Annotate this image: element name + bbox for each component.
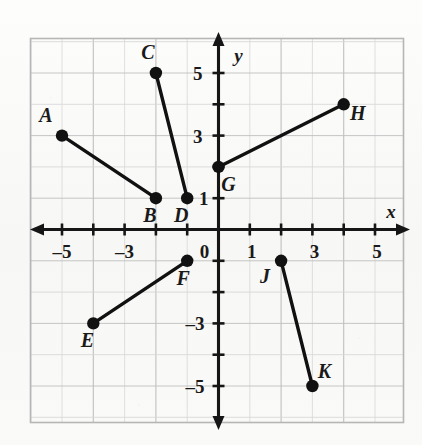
point-J xyxy=(275,255,287,267)
axes-layer xyxy=(30,32,410,430)
point-label-F: F xyxy=(176,267,191,289)
x-tick-label: 0 xyxy=(200,241,210,262)
point-H xyxy=(338,98,350,110)
point-label-K: K xyxy=(317,360,333,382)
point-label-A: A xyxy=(37,104,52,126)
y-tick-label: –5 xyxy=(185,376,205,397)
y-tick-label: 3 xyxy=(193,126,203,147)
point-label-E: E xyxy=(80,329,94,351)
y-tick-label: 5 xyxy=(193,63,203,84)
point-label-J: J xyxy=(259,265,271,287)
coordinate-plane-svg: –5–30135531–3–5 ABCDEFGHJK xy xyxy=(0,0,422,445)
y-axis-label: y xyxy=(232,45,243,66)
point-label-D: D xyxy=(173,204,188,226)
point-D xyxy=(181,192,193,204)
point-C xyxy=(150,67,162,79)
x-tick-label: 3 xyxy=(310,241,320,262)
point-label-G: G xyxy=(221,173,236,195)
point-label-H: H xyxy=(349,102,367,124)
x-tick-label: 1 xyxy=(247,241,257,262)
point-B xyxy=(150,192,162,204)
axis-name-labels: xy xyxy=(232,45,396,222)
point-F xyxy=(181,255,193,267)
x-tick-label: –3 xyxy=(114,241,134,262)
point-label-B: B xyxy=(142,204,156,226)
y-tick-label: 1 xyxy=(199,188,209,209)
x-tick-label: –5 xyxy=(52,241,72,262)
point-A xyxy=(56,129,68,141)
coordinate-plane-figure: –5–30135531–3–5 ABCDEFGHJK xy xyxy=(0,0,422,445)
y-tick-label: –3 xyxy=(185,313,205,334)
x-tick-label: 5 xyxy=(372,241,382,262)
x-axis-arrow-left xyxy=(30,224,44,236)
point-label-C: C xyxy=(141,41,155,63)
x-axis-label: x xyxy=(385,201,396,222)
point-G xyxy=(212,161,224,173)
point-E xyxy=(87,317,99,329)
